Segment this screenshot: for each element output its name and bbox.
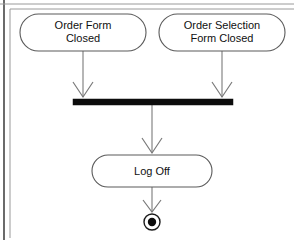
uml-activity-diagram-canvas: Order Form Closed Order Selection Form C… [0,0,294,245]
node-label-line1: Order Selection [184,19,260,31]
node-label-line1: Log Off [134,165,171,177]
transition-order-selection-form-closed-to-join [212,51,232,97]
node-label-line2: Form Closed [191,32,254,44]
final-state-inner-dot-icon [148,218,156,226]
transition-order-form-closed-to-join [73,51,93,97]
node-order-selection-form-closed[interactable]: Order Selection Form Closed [159,14,285,51]
join-synchronization-bar[interactable] [73,99,233,105]
node-log-off[interactable]: Log Off [92,155,212,187]
join-bar-shape [73,99,233,105]
diagram-svg: Order Form Closed Order Selection Form C… [0,0,294,245]
node-order-form-closed[interactable]: Order Form Closed [20,14,146,51]
transition-join-to-log-off [142,105,162,153]
node-label-line1: Order Form [55,19,112,31]
final-state[interactable] [144,214,160,230]
node-label-line2: Closed [66,32,100,44]
transition-log-off-to-final-state [143,187,161,212]
